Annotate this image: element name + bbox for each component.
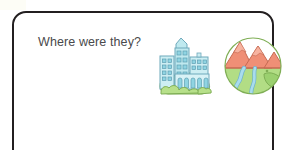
scan-tint (0, 0, 26, 10)
page-title: Where were they? (38, 36, 141, 49)
nature-illustration (220, 30, 286, 102)
illustration-row (154, 30, 288, 102)
worksheet-card: Where were they? (12, 11, 274, 150)
city-illustration (154, 30, 220, 102)
city-buildings (160, 38, 209, 89)
